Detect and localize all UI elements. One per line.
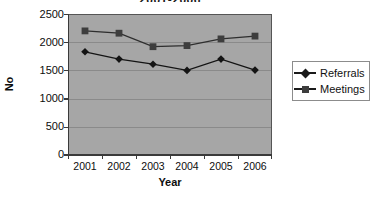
series-meetings [82,28,259,51]
x-tick-2003: 2003 [136,161,170,172]
legend-marker-square-icon [294,83,316,95]
x-tick-2006: 2006 [238,161,272,172]
legend-label-meetings: Meetings [316,83,365,95]
x-tick-2001: 2001 [68,161,102,172]
line-chart: 2001-2006 0 500 1000 1500 2000 2500 [0,0,373,198]
data-point-referrals-2004 [183,67,191,75]
axis-lines [68,14,272,156]
data-point-meetings-2003 [150,43,157,50]
data-point-meetings-2004 [184,42,191,49]
x-tick-2004: 2004 [170,161,204,172]
y-axis-ticks [64,14,68,155]
data-point-referrals-2002 [115,55,123,63]
data-point-referrals-2006 [251,66,259,74]
y-axis-title: No [3,67,15,101]
data-point-meetings-2006 [252,33,259,40]
data-point-meetings-2002 [116,30,123,37]
data-point-referrals-2003 [149,60,157,68]
data-point-meetings-2005 [218,36,225,43]
legend-label-referrals: Referrals [316,67,365,79]
x-axis-title: Year [100,176,240,188]
x-tick-2005: 2005 [204,161,238,172]
data-point-referrals-2001 [81,48,89,56]
x-tick-2002: 2002 [102,161,136,172]
legend-item-meetings[interactable]: Meetings [295,81,367,97]
legend-item-referrals[interactable]: Referrals [295,65,367,81]
data-point-meetings-2001 [82,28,89,35]
legend-marker-diamond-icon [294,67,316,79]
chart-legend: Referrals Meetings [292,61,370,101]
series-referrals [81,48,259,74]
x-axis-ticks [69,155,272,159]
data-point-referrals-2005 [217,55,225,63]
